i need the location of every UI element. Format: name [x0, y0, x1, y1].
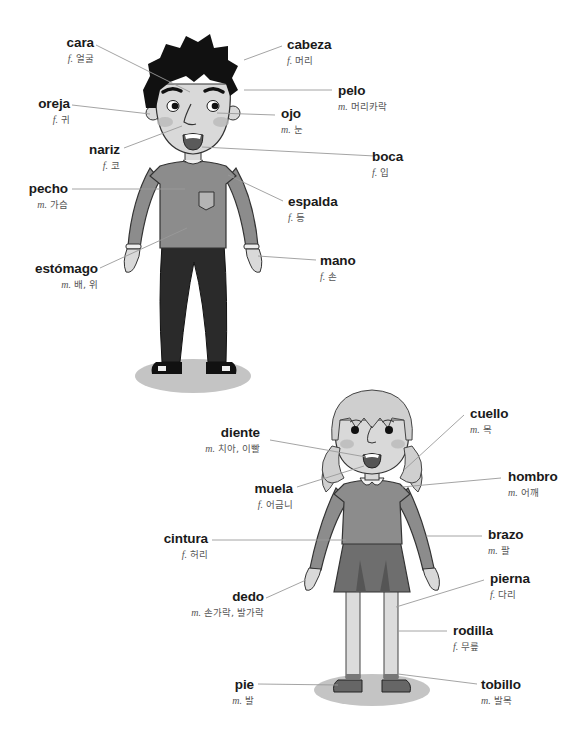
label-pierna: pierna f.다리 [490, 572, 530, 600]
label-korean: 입 [380, 167, 389, 178]
label-estomago: estómago m.배, 위 [10, 262, 98, 290]
label-korean: 등 [296, 212, 305, 223]
gender-marker: m. [61, 279, 71, 290]
label-korean: 머리카락 [351, 101, 387, 112]
label-korean: 손가락, 발가락 [204, 607, 264, 618]
label-korean: 머리 [295, 55, 313, 66]
label-korean: 발 [245, 695, 254, 706]
label-cuello: cuello m.목 [470, 407, 508, 435]
gender-marker: f. [372, 167, 377, 178]
body-parts-diagram: cara f.얼굴 cabeza f.머리 pelo m.머리카락 oreja … [0, 0, 582, 737]
label-spanish: pierna [490, 572, 530, 586]
label-spanish: brazo [488, 528, 524, 542]
label-spanish: pie [220, 678, 254, 692]
label-mano: mano f.손 [320, 254, 356, 282]
label-oreja: oreja f.귀 [14, 97, 70, 125]
girl-figure [305, 390, 440, 706]
label-korean: 목 [483, 424, 492, 435]
label-spanish: tobillo [481, 678, 521, 692]
label-diente: diente m.치아, 이빨 [180, 426, 260, 454]
label-dedo: dedo m.손가락, 발가락 [170, 590, 264, 618]
gender-marker: f. [182, 549, 187, 560]
label-korean: 치아, 이빨 [218, 443, 260, 454]
label-spanish: cintura [148, 532, 208, 546]
label-cintura: cintura f.허리 [148, 532, 208, 560]
label-korean: 어깨 [521, 487, 539, 498]
gender-marker: m. [37, 199, 47, 210]
label-spanish: cuello [470, 407, 508, 421]
label-korean: 얼굴 [76, 53, 94, 64]
label-pie: pie m.발 [220, 678, 254, 706]
label-cabeza: cabeza f.머리 [287, 38, 331, 66]
gender-marker: f. [258, 499, 263, 510]
label-brazo: brazo m.팔 [488, 528, 524, 556]
boy-figure [124, 34, 262, 393]
gender-marker: m. [508, 487, 518, 498]
label-spanish: nariz [64, 143, 120, 157]
gender-marker: f. [287, 55, 292, 66]
label-spanish: cara [40, 36, 94, 50]
label-spanish: pelo [338, 84, 387, 98]
label-korean: 무릎 [461, 641, 479, 652]
label-spanish: boca [372, 150, 403, 164]
label-spanish: oreja [14, 97, 70, 111]
gender-marker: m. [205, 443, 215, 454]
label-korean: 발목 [494, 695, 512, 706]
label-korean: 어금니 [266, 499, 293, 510]
label-spanish: mano [320, 254, 356, 268]
gender-marker: m. [481, 695, 491, 706]
gender-marker: m. [232, 695, 242, 706]
label-korean: 배, 위 [74, 279, 98, 290]
gender-marker: m. [338, 101, 348, 112]
label-pelo: pelo m.머리카락 [338, 84, 387, 112]
label-pecho: pecho m.가슴 [10, 182, 68, 210]
gender-marker: f. [453, 641, 458, 652]
label-spanish: diente [180, 426, 260, 440]
label-cara: cara f.얼굴 [40, 36, 94, 64]
label-rodilla: rodilla f.무릎 [453, 624, 493, 652]
label-boca: boca f.입 [372, 150, 403, 178]
label-ojo: ojo m.눈 [281, 107, 303, 135]
label-spanish: espalda [288, 195, 338, 209]
label-korean: 귀 [61, 114, 70, 125]
gender-marker: f. [53, 114, 58, 125]
label-spanish: cabeza [287, 38, 331, 52]
gender-marker: f. [490, 589, 495, 600]
gender-marker: f. [103, 160, 108, 171]
label-muela: muela f.어금니 [235, 482, 293, 510]
gender-marker: m. [281, 124, 291, 135]
label-korean: 가슴 [50, 199, 68, 210]
gender-marker: f. [320, 271, 325, 282]
label-espalda: espalda f.등 [288, 195, 338, 223]
label-korean: 손 [328, 271, 337, 282]
label-tobillo: tobillo m.발목 [481, 678, 521, 706]
label-korean: 다리 [498, 589, 516, 600]
label-korean: 허리 [190, 549, 208, 560]
label-spanish: rodilla [453, 624, 493, 638]
label-korean: 팔 [501, 545, 510, 556]
label-spanish: hombro [508, 470, 558, 484]
label-spanish: estómago [10, 262, 98, 276]
label-hombro: hombro m.어깨 [508, 470, 558, 498]
label-spanish: ojo [281, 107, 303, 121]
label-korean: 코 [111, 160, 120, 171]
gender-marker: m. [488, 545, 498, 556]
label-spanish: pecho [10, 182, 68, 196]
gender-marker: m. [470, 424, 480, 435]
label-nariz: nariz f.코 [64, 143, 120, 171]
label-spanish: muela [235, 482, 293, 496]
gender-marker: f. [288, 212, 293, 223]
gender-marker: f. [68, 53, 73, 64]
label-korean: 눈 [294, 124, 303, 135]
gender-marker: m. [191, 607, 201, 618]
label-spanish: dedo [170, 590, 264, 604]
